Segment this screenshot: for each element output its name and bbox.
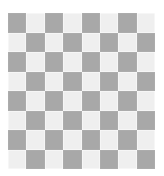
- checker-square-light-r5-c2: [26, 91, 44, 111]
- checker-square-dark-r1-c5: [82, 13, 100, 33]
- checker-square-dark-r3-c1: [8, 52, 26, 72]
- checker-square-dark-r8-c6: [100, 150, 118, 170]
- checker-square-dark-r1-c7: [118, 13, 136, 33]
- checker-square-dark-r8-c8: [137, 150, 155, 170]
- checker-square-light-r5-c4: [63, 91, 81, 111]
- image-canvas: [0, 0, 164, 176]
- checker-square-dark-r4-c2: [26, 72, 44, 92]
- checker-square-light-r2-c5: [82, 33, 100, 53]
- checker-square-light-r1-c4: [63, 13, 81, 33]
- checker-square-dark-r6-c8: [137, 111, 155, 131]
- checker-square-dark-r3-c5: [82, 52, 100, 72]
- checker-square-dark-r6-c6: [100, 111, 118, 131]
- checker-square-light-r7-c6: [100, 130, 118, 150]
- checker-square-light-r3-c2: [26, 52, 44, 72]
- checker-square-dark-r7-c3: [45, 130, 63, 150]
- checker-square-light-r7-c2: [26, 130, 44, 150]
- checker-square-light-r6-c1: [8, 111, 26, 131]
- checker-square-light-r7-c8: [137, 130, 155, 150]
- checker-square-dark-r8-c2: [26, 150, 44, 170]
- checker-square-light-r1-c8: [137, 13, 155, 33]
- checker-square-dark-r5-c7: [118, 91, 136, 111]
- checker-square-light-r2-c3: [45, 33, 63, 53]
- checker-square-light-r1-c6: [100, 13, 118, 33]
- checker-square-dark-r6-c4: [63, 111, 81, 131]
- checker-square-light-r4-c3: [45, 72, 63, 92]
- checker-square-dark-r2-c4: [63, 33, 81, 53]
- checker-square-dark-r4-c4: [63, 72, 81, 92]
- checker-square-dark-r2-c6: [100, 33, 118, 53]
- checker-square-light-r7-c4: [63, 130, 81, 150]
- checker-square-dark-r3-c7: [118, 52, 136, 72]
- checker-square-light-r6-c3: [45, 111, 63, 131]
- checker-square-dark-r6-c2: [26, 111, 44, 131]
- checker-square-light-r3-c6: [100, 52, 118, 72]
- checker-square-light-r2-c1: [8, 33, 26, 53]
- checker-square-light-r3-c8: [137, 52, 155, 72]
- checker-square-light-r1-c2: [26, 13, 44, 33]
- checker-square-dark-r7-c1: [8, 130, 26, 150]
- checker-square-dark-r7-c5: [82, 130, 100, 150]
- checker-square-dark-r3-c3: [45, 52, 63, 72]
- checker-square-dark-r7-c7: [118, 130, 136, 150]
- checker-square-light-r3-c4: [63, 52, 81, 72]
- checker-square-light-r4-c5: [82, 72, 100, 92]
- checker-square-light-r6-c7: [118, 111, 136, 131]
- checker-square-light-r8-c7: [118, 150, 136, 170]
- checker-square-dark-r5-c5: [82, 91, 100, 111]
- checker-square-light-r5-c8: [137, 91, 155, 111]
- checker-square-light-r4-c1: [8, 72, 26, 92]
- checker-square-light-r5-c6: [100, 91, 118, 111]
- checker-square-dark-r4-c8: [137, 72, 155, 92]
- checker-square-dark-r2-c8: [137, 33, 155, 53]
- checker-square-dark-r1-c3: [45, 13, 63, 33]
- checker-square-dark-r5-c3: [45, 91, 63, 111]
- checker-square-light-r8-c3: [45, 150, 63, 170]
- checker-square-dark-r5-c1: [8, 91, 26, 111]
- checker-square-dark-r2-c2: [26, 33, 44, 53]
- checker-square-dark-r8-c4: [63, 150, 81, 170]
- checker-square-light-r2-c7: [118, 33, 136, 53]
- checkerboard: [8, 13, 155, 169]
- checker-square-dark-r4-c6: [100, 72, 118, 92]
- checker-square-light-r4-c7: [118, 72, 136, 92]
- checker-square-dark-r1-c1: [8, 13, 26, 33]
- checker-square-light-r8-c5: [82, 150, 100, 170]
- checker-square-light-r8-c1: [8, 150, 26, 170]
- checker-square-light-r6-c5: [82, 111, 100, 131]
